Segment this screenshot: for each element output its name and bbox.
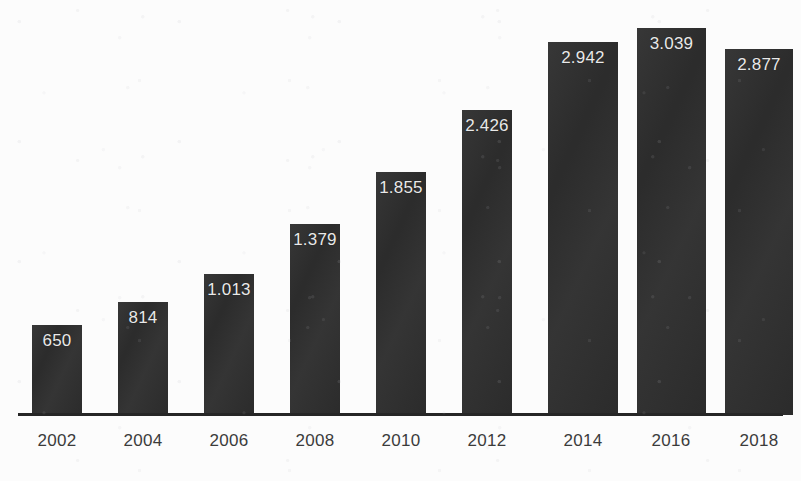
bar-value-label: 650 [32,332,82,351]
bar-group-2010[interactable]: 1.855 [376,172,426,415]
x-tick-label-2018: 2018 [729,431,789,451]
x-tick-label-2016: 2016 [641,431,701,451]
bar-value-label: 2.877 [725,56,793,75]
bar-rect[interactable]: 1.379 [290,224,340,415]
bar-group-2016[interactable]: 3.039 [637,28,706,415]
bar-group-2012[interactable]: 2.426 [462,110,512,415]
bar-rect[interactable]: 1.013 [204,274,254,415]
bar-value-label: 1.855 [376,179,426,198]
bar-group-2002[interactable]: 650 [32,325,82,415]
bar-group-2018[interactable]: 2.877 [725,49,793,415]
x-tick-label-2012: 2012 [462,431,512,451]
bar-value-label: 2.426 [462,117,512,136]
bar-group-2014[interactable]: 2.942 [548,42,618,415]
bar-rect[interactable]: 650 [32,325,82,415]
bar-value-label: 814 [118,309,168,328]
chart-plot-area: 650 814 1.013 1.379 1.855 [0,0,801,481]
x-tick-label-2002: 2002 [32,431,82,451]
x-tick-label-2008: 2008 [290,431,340,451]
bar-group-2008[interactable]: 1.379 [290,224,340,415]
bar-rect[interactable]: 3.039 [637,28,706,415]
bar-group-2004[interactable]: 814 [118,302,168,415]
x-tick-label-2006: 2006 [204,431,254,451]
bar-rect[interactable]: 2.426 [462,110,512,415]
bar-value-label: 2.942 [548,49,618,68]
bar-value-label: 1.379 [290,231,340,250]
bar-group-2006[interactable]: 1.013 [204,274,254,415]
bar-chart-figure: 650 814 1.013 1.379 1.855 [0,0,801,481]
bar-value-label: 3.039 [637,35,706,54]
x-tick-label-2010: 2010 [376,431,426,451]
bar-rect[interactable]: 1.855 [376,172,426,415]
bar-rect[interactable]: 2.942 [548,42,618,415]
x-tick-label-2014: 2014 [553,431,613,451]
bar-value-label: 1.013 [204,281,254,300]
bar-rect[interactable]: 814 [118,302,168,415]
bar-rect[interactable]: 2.877 [725,49,793,415]
x-axis-line [18,413,783,416]
x-tick-label-2004: 2004 [118,431,168,451]
